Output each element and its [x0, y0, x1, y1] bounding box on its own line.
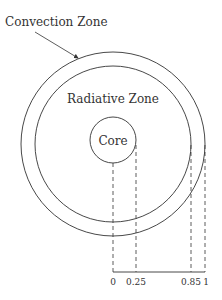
radiative-zone-label: Radiative Zone	[67, 92, 159, 106]
tick-0-25: 0.25	[126, 277, 146, 287]
core-label: Core	[98, 134, 127, 148]
convection-zone-label: Convection Zone	[5, 15, 108, 29]
tick-0: 0	[110, 277, 116, 287]
dashed-projections	[113, 145, 205, 272]
tick-0-85: 0.85	[181, 277, 201, 287]
convection-arrow	[35, 32, 78, 58]
sun-structure-diagram: Convection Zone Radiative Zone Core 0 0.…	[0, 0, 222, 300]
tick-1: 1	[203, 277, 209, 287]
